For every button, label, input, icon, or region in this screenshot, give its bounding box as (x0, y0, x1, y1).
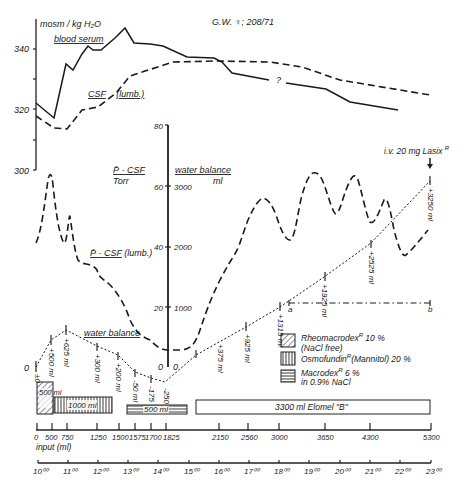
input-tick-500: 500 (45, 433, 58, 442)
infusion-macro-label: 500 ml (144, 405, 168, 414)
input-tick-5300: 5300 (423, 433, 441, 442)
balance-label-1: +500 ml (47, 348, 56, 377)
input-axis-title: input (ml) (36, 442, 72, 452)
marker-b: b (428, 305, 433, 314)
zero-mid-right: 0 (173, 362, 178, 372)
pcsf-curve-label-suffix: (lumb.) (124, 248, 152, 258)
balance-label-8: +375 ml (216, 344, 225, 373)
pcsf-axis-unit: Torr (113, 176, 130, 186)
legend-item-osmofundin: OsmofundinR(Mannitol) 20 % (281, 352, 411, 365)
csf-label-suffix: (lumb.) (116, 89, 144, 99)
legend-osmo-line1: (Mannitol) 20 % (351, 354, 411, 364)
time-tick-18: 18⁰⁰ (274, 467, 291, 476)
input-tick-1575: 1575 (129, 433, 147, 442)
lasix-sup: R (445, 145, 450, 151)
legend-rheo-line1: 10 % (363, 333, 385, 343)
time-tick-10: 10⁰⁰ (33, 467, 50, 476)
svg-text:RheomacrodexR 10 %: RheomacrodexR 10 % (301, 332, 385, 343)
input-tick-2150: 2150 (211, 433, 230, 442)
water-balance-curve-label: water balance (84, 328, 140, 338)
input-tick-1825: 1825 (163, 433, 181, 442)
time-tick-15: 15⁰⁰ (184, 467, 201, 476)
pcsf-axis-title: P̄ - CSF (113, 165, 146, 175)
osm-tick-320: 320 (14, 105, 29, 115)
water-axis-unit: ml (213, 176, 223, 186)
zero-mid-left: 0 (158, 362, 163, 372)
pcsf-tick-80: 80 (154, 122, 163, 131)
legend: RheomacrodexR 10 % (NaCl free) Osmofundi… (281, 332, 411, 387)
input-tick-3000: 3000 (271, 433, 289, 442)
legend-item-macrodex: MacrodexR 6 % in 0.9% NaCl (281, 367, 360, 387)
water-tick-2000: 2000 (173, 243, 192, 252)
patient-id: G.W. ♀; 208/71 (212, 17, 274, 27)
water-axis-title: water balance (175, 165, 231, 175)
balance-label-11: +1925 ml (320, 284, 329, 317)
infusion-bars: 500 ml 1000 ml 500 ml 3300 ml Elomel "B" (37, 382, 430, 414)
csf-label-main: CSF (88, 89, 107, 99)
time-tick-23: 23⁰⁰ (425, 467, 443, 476)
balance-label-2: +625 ml (62, 338, 71, 367)
time-tick-12: 12⁰⁰ (93, 467, 110, 476)
ab-reference-line: a b (288, 300, 433, 314)
time-tick-14: 14⁰⁰ (153, 467, 170, 476)
input-tick-1250: 1250 (90, 433, 108, 442)
time-tick-19: 19⁰⁰ (304, 467, 321, 476)
time-tick-20: 20⁰⁰ (334, 467, 352, 476)
balance-label-7: -250 (162, 388, 171, 405)
pcsf-tick-20: 20 (153, 304, 163, 313)
legend-osmo-name: Osmofundin (301, 354, 347, 364)
input-axis: 0 500 750 1250 1500 1575 1700 1825 2150 … (34, 423, 441, 452)
pcsf-tick-40: 40 (154, 243, 163, 252)
csf-label: CSF (lumb.) (88, 89, 144, 99)
water-tick-1000: 1000 (174, 304, 192, 313)
pcsf-curve-label-main: P̄ - CSF (90, 248, 123, 258)
pcsf-curve-label: P̄ - CSF (lumb.) (90, 248, 152, 258)
input-tick-2560: 2560 (240, 433, 259, 442)
blood-serum-label: blood serum (54, 34, 104, 44)
marker-a: a (288, 305, 293, 314)
zero-left-label: 0 (24, 363, 29, 373)
time-tick-16: 16⁰⁰ (214, 467, 231, 476)
osm-tick-340: 340 (14, 44, 29, 54)
question-mark: ? (276, 75, 281, 85)
input-tick-750: 750 (61, 433, 74, 442)
legend-item-rheomacrodex: RheomacrodexR 10 % (NaCl free) (281, 332, 385, 353)
input-tick-0: 0 (34, 433, 39, 442)
svg-text:OsmofundinR(Mannitol) 20 %: OsmofundinR(Mannitol) 20 % (301, 353, 411, 364)
infusion-elomel-label: 3300 ml Elomel "B" (275, 402, 349, 412)
legend-rheo-line2: (NaCl free) (301, 343, 343, 353)
balance-label-13: +3250 ml (426, 188, 435, 221)
input-tick-3650: 3650 (317, 433, 335, 442)
balance-label-4: +200 ml (114, 363, 123, 392)
balance-label-3: +300 ml (93, 354, 102, 383)
arrow-down-icon (427, 158, 433, 169)
input-tick-4300: 4300 (362, 433, 380, 442)
time-tick-17: 17⁰⁰ (244, 467, 261, 476)
water-tick-3000: 3000 (174, 183, 192, 192)
time-tick-11: 11⁰⁰ (63, 467, 79, 476)
clinical-chart: G.W. ♀; 208/71 340 320 300 mosm / kg H₂O… (0, 0, 463, 491)
osm-tick-300: 300 (14, 166, 29, 176)
osm-unit-label: mosm / kg H₂O (40, 19, 101, 29)
time-tick-13: 13⁰⁰ (123, 467, 140, 476)
input-tick-1700: 1700 (145, 433, 163, 442)
time-tick-21: 21⁰⁰ (364, 467, 382, 476)
infusion-rheo-label: 500 ml (39, 388, 62, 397)
balance-label-9: +925 ml (243, 334, 252, 363)
lasix-text: i.v. 20 mg Lasix (384, 146, 443, 156)
legend-rheo-name: Rheomacrodex (301, 333, 359, 343)
balance-label-5: -50 ml (131, 380, 140, 402)
infusion-osmo-label: 1000 ml (68, 401, 97, 410)
balance-label-6: -175 (147, 386, 156, 403)
time-tick-22: 22⁰⁰ (394, 467, 412, 476)
balance-label-12: +2525 ml (367, 251, 376, 284)
lasix-annotation: i.v. 20 mg Lasix R (384, 145, 450, 156)
time-axis: 10⁰⁰ 11⁰⁰ 12⁰⁰ 13⁰⁰ 14⁰⁰ 15⁰⁰ 16⁰⁰ 17⁰⁰ … (33, 460, 443, 476)
input-tick-1500: 1500 (112, 433, 130, 442)
legend-macro-line2: in 0.9% NaCl (301, 377, 352, 387)
pcsf-tick-60: 60 (154, 183, 163, 192)
